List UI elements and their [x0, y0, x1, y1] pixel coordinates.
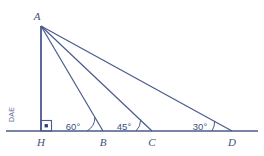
angle-arc-b — [87, 117, 95, 131]
vertex-label-b: B — [100, 136, 107, 148]
vertex-label-a: A — [33, 10, 41, 22]
watermark-label: DAE — [8, 107, 15, 122]
angle-label-b: 60° — [66, 121, 81, 132]
vertex-label-c: C — [148, 136, 156, 148]
vertex-label-h: H — [36, 136, 46, 148]
geometry-canvas: A H B C D 60° 45° 30° DAE — [0, 0, 264, 156]
right-angle-dot-icon — [45, 124, 48, 127]
angle-label-d: 30° — [193, 121, 208, 132]
geometry-diagram: A H B C D 60° 45° 30° DAE — [0, 0, 264, 156]
angle-label-c: 45° — [117, 121, 132, 132]
angle-arc-d — [212, 121, 215, 131]
segment-AB — [41, 26, 103, 131]
vertex-label-d: D — [227, 136, 236, 148]
segment-AD — [41, 26, 232, 131]
angle-arc-c — [136, 120, 141, 131]
